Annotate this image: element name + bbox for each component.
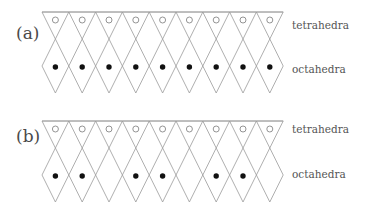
octahedron-diamond — [256, 148, 283, 202]
tetrahedron-open-circle-icon — [106, 17, 112, 23]
tetrahedron-triangle — [69, 121, 96, 148]
octahedron-filled-dot-icon — [160, 64, 165, 69]
tetrahedron-open-circle-icon — [267, 126, 273, 132]
polyhedra-lattice-b — [42, 121, 283, 202]
tetrahedron-triangle — [230, 12, 257, 39]
octahedron-filled-dot-icon — [240, 64, 245, 69]
panel-a: (a) tetrahedra octahedra — [16, 12, 349, 93]
tetrahedron-triangle — [122, 12, 149, 39]
tetrahedron-open-circle-icon — [213, 17, 219, 23]
octahedron-filled-dot-icon — [160, 173, 165, 178]
octahedron-filled-dot-icon — [187, 64, 192, 69]
tetrahedron-triangle — [96, 121, 123, 148]
tetrahedron-triangle — [69, 12, 96, 39]
tetrahedron-open-circle-icon — [213, 126, 219, 132]
tetrahedron-triangle — [203, 121, 230, 148]
tetrahedron-triangle — [149, 121, 176, 148]
octahedron-filled-dot-icon — [133, 64, 138, 69]
octahedron-diamond — [96, 148, 123, 202]
tetrahedron-open-circle-icon — [186, 17, 192, 23]
tetrahedron-open-circle-icon — [79, 17, 85, 23]
octahedron-diamond — [176, 148, 203, 202]
tetrahedron-open-circle-icon — [52, 126, 58, 132]
tetrahedron-triangle — [42, 121, 69, 148]
panel-label-a: (a) — [16, 23, 39, 43]
octahedron-filled-dot-icon — [133, 173, 138, 178]
tetrahedron-triangle — [176, 12, 203, 39]
tetrahedron-triangle — [230, 121, 257, 148]
panel-b: (b) tetrahedra octahedra — [16, 121, 349, 202]
tetrahedra-label-a: tetrahedra — [292, 19, 349, 31]
tetrahedron-open-circle-icon — [186, 126, 192, 132]
tetrahedron-open-circle-icon — [240, 17, 246, 23]
octahedron-filled-dot-icon — [214, 64, 219, 69]
tetrahedron-triangle — [256, 12, 283, 39]
tetrahedron-triangle — [96, 12, 123, 39]
tetrahedra-label-b: tetrahedra — [292, 123, 349, 135]
octahedron-filled-dot-icon — [267, 64, 272, 69]
octahedron-filled-dot-icon — [106, 64, 111, 69]
tetrahedron-triangle — [42, 12, 69, 39]
tetrahedron-triangle — [149, 12, 176, 39]
tetrahedron-triangle — [176, 121, 203, 148]
octahedron-filled-dot-icon — [53, 173, 58, 178]
octahedron-filled-dot-icon — [240, 173, 245, 178]
octahedron-filled-dot-icon — [80, 173, 85, 178]
octahedra-label-a: octahedra — [292, 63, 346, 75]
tetrahedron-open-circle-icon — [160, 126, 166, 132]
tetrahedron-open-circle-icon — [133, 126, 139, 132]
tetrahedron-triangle — [203, 12, 230, 39]
octahedra-label-b: octahedra — [292, 168, 346, 180]
tetrahedron-open-circle-icon — [160, 17, 166, 23]
octahedron-filled-dot-icon — [80, 64, 85, 69]
tetrahedron-open-circle-icon — [133, 17, 139, 23]
octahedron-filled-dot-icon — [53, 64, 58, 69]
tetrahedron-open-circle-icon — [52, 17, 58, 23]
tetrahedron-open-circle-icon — [267, 17, 273, 23]
tetrahedron-triangle — [122, 121, 149, 148]
polyhedra-lattice-a — [42, 12, 283, 93]
panel-label-b: (b) — [16, 126, 40, 146]
tetrahedra-octahedra-diagram: (a) tetrahedra octahedra (b) tetrahedra … — [0, 0, 369, 210]
tetrahedron-open-circle-icon — [240, 126, 246, 132]
octahedron-filled-dot-icon — [214, 173, 219, 178]
tetrahedron-open-circle-icon — [106, 126, 112, 132]
tetrahedron-open-circle-icon — [79, 126, 85, 132]
tetrahedron-triangle — [256, 121, 283, 148]
